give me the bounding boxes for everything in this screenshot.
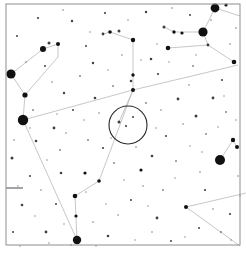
star-marker <box>127 19 128 20</box>
star-marker <box>29 127 30 128</box>
star-marker <box>131 38 135 42</box>
star-marker <box>56 113 57 114</box>
star-marker <box>83 171 86 174</box>
star-marker <box>130 80 133 83</box>
star-marker <box>171 7 173 9</box>
star-marker <box>162 189 164 191</box>
star-chart <box>0 0 246 254</box>
star-marker <box>147 205 148 206</box>
star-marker <box>132 116 134 118</box>
star-marker <box>51 81 53 83</box>
star-marker <box>95 245 96 246</box>
star-marker <box>225 111 227 113</box>
star-marker <box>22 92 27 97</box>
star-marker <box>118 30 121 33</box>
star-marker <box>65 132 67 134</box>
star-marker <box>32 109 34 111</box>
star-marker <box>140 59 141 60</box>
star-marker <box>131 88 135 92</box>
star-marker <box>13 139 15 141</box>
star-marker <box>217 126 218 127</box>
star-marker <box>155 127 156 128</box>
star-marker <box>230 239 231 240</box>
star-marker <box>160 109 162 111</box>
sky-plot <box>0 0 246 254</box>
star-marker <box>131 73 134 76</box>
star-marker <box>6 69 15 78</box>
star-marker <box>118 121 121 124</box>
star-marker <box>145 102 147 104</box>
star-marker <box>211 4 220 13</box>
star-marker <box>135 146 137 148</box>
star-marker <box>231 138 235 142</box>
star-marker <box>113 162 115 164</box>
star-marker <box>195 54 196 55</box>
star-marker <box>112 85 114 87</box>
star-marker <box>98 112 100 114</box>
star-marker <box>212 97 215 100</box>
star-marker <box>150 58 153 61</box>
star-marker <box>174 177 175 178</box>
star-marker <box>40 189 42 191</box>
star-marker <box>134 239 135 240</box>
star-marker <box>85 45 87 47</box>
star-marker <box>102 33 105 36</box>
star-marker <box>237 175 239 177</box>
star-marker <box>92 62 94 64</box>
star-marker <box>189 145 190 146</box>
star-marker <box>37 17 39 19</box>
star-marker <box>184 205 188 209</box>
star-marker <box>229 43 231 45</box>
star-marker <box>62 9 64 11</box>
star-marker <box>34 215 35 216</box>
star-marker <box>184 236 185 237</box>
star-marker <box>223 95 224 96</box>
star-marker <box>212 208 214 210</box>
star-marker <box>102 147 104 149</box>
star-marker <box>235 119 236 120</box>
star-marker <box>89 31 90 32</box>
star-marker <box>145 11 147 13</box>
star-marker <box>72 109 74 111</box>
star-marker <box>18 115 28 125</box>
star-marker <box>177 98 180 101</box>
star-marker <box>215 155 225 165</box>
star-marker <box>175 160 177 162</box>
star-marker <box>207 44 210 47</box>
star-marker <box>195 115 198 118</box>
star-marker <box>79 75 81 77</box>
star-marker <box>156 43 157 44</box>
star-marker <box>166 46 171 51</box>
star-marker <box>85 191 86 192</box>
star-marker <box>97 179 101 183</box>
star-marker <box>74 214 77 217</box>
star-marker <box>59 149 61 151</box>
star-marker <box>221 79 223 81</box>
star-marker <box>105 203 106 204</box>
star-marker <box>107 69 108 70</box>
star-marker <box>182 123 184 125</box>
star-marker <box>104 12 106 14</box>
star-marker <box>60 172 63 175</box>
star-marker <box>53 127 56 130</box>
star-marker <box>198 27 207 36</box>
star-marker <box>170 240 172 242</box>
star-marker <box>107 235 110 238</box>
star-marker <box>232 60 237 65</box>
star-marker <box>48 242 49 243</box>
star-marker <box>157 73 159 75</box>
star-marker <box>92 221 94 223</box>
star-marker <box>17 185 18 186</box>
star-marker <box>55 203 57 205</box>
star-marker <box>19 245 20 246</box>
star-marker <box>117 214 119 216</box>
star-marker <box>188 84 190 86</box>
star-marker <box>165 135 167 137</box>
star-marker <box>151 231 153 233</box>
star-marker <box>46 159 47 160</box>
star-marker <box>110 137 111 138</box>
star-marker <box>35 140 38 143</box>
star-marker <box>83 119 84 120</box>
star-marker <box>40 46 46 52</box>
star-marker <box>94 97 97 100</box>
